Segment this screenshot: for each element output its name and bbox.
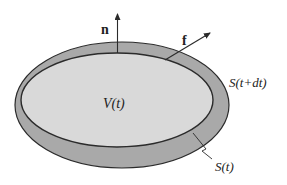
control-volume-diagram: n f V(t) S(t+dt) S(t): [0, 0, 287, 185]
force-vector-label: f: [182, 33, 187, 48]
volume-label: V(t): [103, 96, 125, 112]
surface-now-label: S(t): [215, 159, 234, 174]
normal-vector-label: n: [101, 22, 109, 37]
surface-later-label: S(t+dt): [229, 75, 267, 90]
